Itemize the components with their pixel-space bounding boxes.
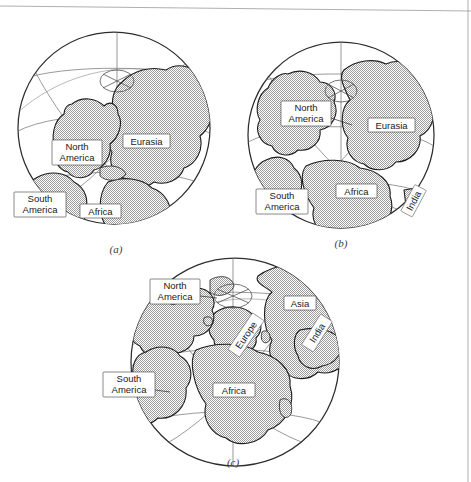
label-africa-text-c: Africa <box>222 385 247 396</box>
label-africa-a: Africa <box>80 204 121 218</box>
label-africa-text-b: Africa <box>344 186 369 197</box>
label-line-south-c: South <box>117 373 142 384</box>
label-eurasia-a: Eurasia <box>123 134 170 148</box>
label-line-north: North <box>65 141 88 152</box>
globe-panel-a: North America Eurasia South America Afri… <box>12 24 214 257</box>
label-asia-c: Asia <box>284 296 316 310</box>
label-line-america-c: America <box>158 291 194 302</box>
label-north-america-b: North America <box>281 101 331 126</box>
label-north-america-c: North America <box>150 279 200 304</box>
label-south-america-b: South America <box>256 189 308 214</box>
label-asia-text: Asia <box>291 298 310 309</box>
caption-a: (a) <box>110 243 123 256</box>
label-africa-b: Africa <box>336 184 377 198</box>
label-line-north-c: North <box>163 280 186 291</box>
landmass-island-c-1 <box>204 317 213 326</box>
continental-drift-figure: North America Eurasia South America Afri… <box>0 0 471 482</box>
label-africa-c: Africa <box>213 383 255 397</box>
landmass-sliver-b-1 <box>374 220 386 233</box>
label-africa-text: Africa <box>88 206 113 217</box>
label-line-south-b: South <box>270 190 295 201</box>
label-south-america-a: South America <box>14 192 66 217</box>
caption-c: (c) <box>227 456 240 469</box>
caption-b: (b) <box>335 237 348 250</box>
label-north-america-a: North America <box>52 140 102 165</box>
globe-panel-b: North America Eurasia South America Afri… <box>245 36 434 250</box>
label-eurasia-text: Eurasia <box>130 136 163 147</box>
figure-container: North America Eurasia South America Afri… <box>0 0 471 482</box>
label-line-north-b: North <box>294 102 317 113</box>
page-top-rule <box>0 6 471 11</box>
landmass-madagascar-c <box>279 399 291 418</box>
label-line-south: South <box>28 193 53 204</box>
landmass-island-c-2 <box>261 331 270 343</box>
label-line-america-c2: America <box>112 384 148 395</box>
label-south-america-c: South America <box>103 372 155 397</box>
label-line-america-2: America <box>23 204 59 215</box>
globe-panel-c: North America Asia Europe India South Am… <box>103 254 370 470</box>
label-eurasia-text-b: Eurasia <box>375 120 408 131</box>
label-line-america: America <box>60 152 96 163</box>
label-line-america-b2: America <box>265 201 301 212</box>
label-eurasia-b: Eurasia <box>368 118 415 132</box>
label-line-america-b: America <box>289 113 325 124</box>
